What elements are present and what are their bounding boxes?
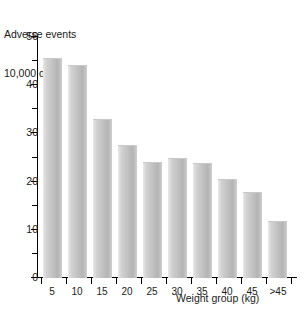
bar-over-45 bbox=[268, 221, 287, 278]
y-tick-minor-45 bbox=[32, 60, 37, 61]
x-tick-0 bbox=[41, 278, 42, 284]
x-tick-4 bbox=[141, 278, 142, 284]
x-tick-label-over-45: >45 bbox=[270, 286, 287, 297]
y-tick-minor-15 bbox=[32, 205, 37, 206]
bar-20 bbox=[118, 145, 137, 278]
bar-35 bbox=[193, 163, 212, 278]
bar-5 bbox=[43, 58, 62, 278]
y-axis-line bbox=[37, 36, 38, 278]
y-tick-minor-25 bbox=[32, 157, 37, 158]
bar-15 bbox=[93, 119, 112, 278]
bar-30 bbox=[168, 158, 187, 278]
bar-chart-plot-area: 0 10 20 30 40 50 5 10 15 20 25 30 35 40 … bbox=[0, 0, 306, 312]
bar-10 bbox=[68, 65, 87, 278]
x-tick-3 bbox=[116, 278, 117, 284]
x-tick-5 bbox=[166, 278, 167, 284]
x-tick-2 bbox=[91, 278, 92, 284]
x-tick-label-25: 25 bbox=[146, 286, 157, 297]
x-tick-7 bbox=[216, 278, 217, 284]
y-tick-label-40: 40 bbox=[12, 79, 38, 90]
x-tick-label-5: 5 bbox=[49, 286, 55, 297]
x-tick-8 bbox=[241, 278, 242, 284]
bar-40 bbox=[218, 179, 237, 278]
x-tick-label-15: 15 bbox=[96, 286, 107, 297]
y-tick-minor-5 bbox=[32, 253, 37, 254]
bar-45 bbox=[243, 192, 262, 278]
y-tick-label-50: 50 bbox=[12, 31, 38, 42]
y-tick-label-20: 20 bbox=[12, 176, 38, 187]
y-tick-label-0: 0 bbox=[12, 272, 38, 283]
y-tick-label-30: 30 bbox=[12, 127, 38, 138]
x-tick-6 bbox=[191, 278, 192, 284]
bar-25 bbox=[143, 162, 162, 278]
x-tick-label-10: 10 bbox=[71, 286, 82, 297]
y-tick-label-10: 10 bbox=[12, 224, 38, 235]
x-tick-9 bbox=[266, 278, 267, 284]
x-tick-10 bbox=[291, 278, 292, 284]
x-tick-label-20: 20 bbox=[121, 286, 132, 297]
x-tick-1 bbox=[66, 278, 67, 284]
y-tick-minor-35 bbox=[32, 108, 37, 109]
x-axis-title: Weight group (kg) bbox=[176, 292, 259, 304]
